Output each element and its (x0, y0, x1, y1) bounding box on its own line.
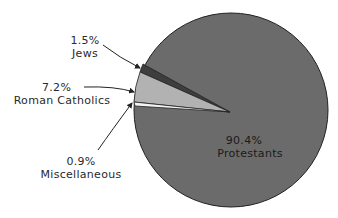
arrow-jews (103, 45, 140, 68)
label-catholics: 7.2% Roman Catholics (8, 81, 116, 107)
label-protestants: 90.4% Protestants (212, 134, 288, 160)
arrow-misc (98, 103, 132, 150)
pie-chart (0, 0, 338, 218)
jews-percent: 1.5% (68, 34, 102, 47)
misc-percent: 0.9% (36, 155, 126, 168)
catholics-percent: 7.2% (8, 81, 116, 94)
protestants-name: Protestants (212, 147, 288, 160)
label-jews: 1.5% Jews (68, 34, 102, 60)
protestants-percent: 90.4% (212, 134, 288, 147)
misc-name: Miscellaneous (36, 168, 126, 181)
catholics-name: Roman Catholics (8, 94, 116, 107)
label-misc: 0.9% Miscellaneous (36, 155, 126, 181)
slice-protestants (134, 13, 328, 207)
jews-name: Jews (68, 47, 102, 60)
